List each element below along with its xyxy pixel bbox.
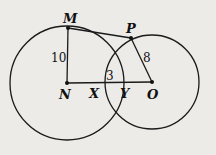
measure-MN: 10: [51, 51, 66, 65]
measure-PO: 8: [143, 51, 151, 65]
geometry-diagram: M P N X Y O 10 8 3: [0, 0, 216, 155]
label-N: N: [58, 87, 72, 102]
label-O: O: [147, 87, 159, 102]
measure-XY: 3: [106, 69, 114, 83]
point-N: [65, 81, 69, 85]
point-O: [150, 80, 154, 84]
label-P: P: [125, 21, 137, 36]
label-M: M: [62, 11, 78, 26]
segment-MN: [67, 28, 68, 83]
label-X: X: [88, 86, 100, 101]
point-P: [129, 36, 133, 40]
label-Y: Y: [120, 86, 131, 101]
diagram-svg: M P N X Y O 10 8 3: [0, 0, 216, 155]
point-M: [66, 26, 70, 30]
